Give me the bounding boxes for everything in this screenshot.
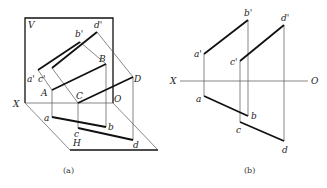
figure-b: X O a' b' c' d' a b c d (b) [169, 8, 319, 175]
label-a: a [44, 113, 49, 123]
line-ab-front [38, 42, 80, 70]
label-b-prime: b' [75, 29, 83, 39]
label-d-b: d [282, 145, 288, 155]
label-d: d [133, 140, 139, 150]
h-plane-left [25, 103, 70, 150]
line-cd-top-b [240, 122, 284, 141]
line-AB [52, 64, 106, 90]
label-A: A [40, 88, 48, 98]
label-d-prime-b: d' [281, 13, 289, 23]
label-b-prime-b: b' [244, 8, 252, 18]
label-C: C [76, 91, 83, 101]
label-b-b: b [251, 111, 257, 121]
label-V: V [28, 20, 36, 30]
label-X-a: X [12, 99, 20, 109]
label-c-prime: c' [38, 74, 46, 84]
line-ab-top [52, 117, 106, 127]
caption-a: (a) [63, 166, 74, 175]
label-c-prime-b: c' [230, 57, 238, 67]
label-a-prime: a' [27, 74, 35, 84]
projector-c [52, 68, 78, 103]
diagram-canvas: V H X O a' c' b' d' A B C D a b c d (a) … [0, 0, 327, 188]
label-d-prime: d' [94, 20, 102, 30]
line-ab-top-b [204, 96, 248, 116]
caption-b: (b) [244, 166, 255, 175]
label-c-b: c [236, 125, 241, 135]
label-H: H [72, 138, 81, 148]
label-B: B [98, 54, 106, 64]
label-O-b: O [311, 76, 319, 86]
label-X-b: X [169, 76, 177, 86]
label-b: b [108, 122, 114, 132]
line-ab-front-b [204, 20, 248, 54]
label-a-prime-b: a' [194, 49, 202, 59]
line-cd-front-b [240, 25, 284, 61]
figure-a: V H X O a' c' b' d' A B C D a b c d (a) [12, 18, 158, 175]
label-a-b: a [196, 94, 201, 104]
line-cd-top [78, 128, 133, 140]
label-c: c [74, 129, 79, 139]
line-CD [78, 77, 133, 103]
label-O-a: O [114, 94, 122, 104]
label-D: D [133, 74, 141, 84]
